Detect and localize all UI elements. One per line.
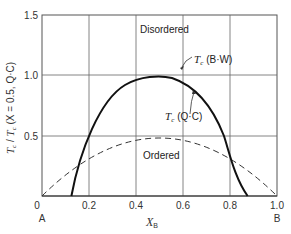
x-tick-label: 0.8 [223, 200, 237, 211]
x-tick-label: 0.2 [82, 200, 96, 211]
y-tick-label: 1.0 [24, 70, 38, 81]
x-tick-label: 0.6 [176, 200, 190, 211]
y-tick-label: 1.5 [24, 10, 38, 21]
phase-diagram-chart: Disordered Ordered Tc(B·W) Tc(Q·C) 1.5 1… [0, 0, 291, 234]
component-b-label: B [274, 213, 281, 224]
x-tick-label: 0.4 [129, 200, 143, 211]
y-tick-label: 0.5 [24, 131, 38, 142]
x-tick-label: 1.0 [270, 200, 284, 211]
bw-leader-line [182, 57, 192, 67]
y-axis-title: Tc / Tc (X = 0.5, Q·C) [4, 62, 18, 154]
curve-label-bw: Tc(B·W) [194, 53, 232, 67]
x-tick-label: 0 [34, 200, 40, 211]
x-axis-title: XB [145, 215, 158, 229]
region-label-ordered: Ordered [143, 150, 180, 161]
region-label-disordered: Disordered [140, 24, 189, 35]
component-a-label: A [39, 213, 46, 224]
curve-label-qc: Tc(Q·C) [165, 110, 202, 124]
